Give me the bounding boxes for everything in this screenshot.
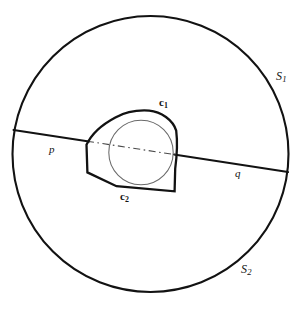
chord-segment-dashed-interior bbox=[87, 141, 176, 155]
chord-segment-left bbox=[14, 130, 90, 142]
label-upper-arc-c1: c1 bbox=[159, 97, 168, 110]
label-c2-subscript: 2 bbox=[125, 195, 129, 204]
label-s1-subscript: 1 bbox=[282, 74, 286, 84]
label-outer-circle-s1: S1 bbox=[276, 70, 287, 84]
geometry-figure: S1 S2 c1 c2 p q bbox=[0, 0, 299, 310]
figure-canvas bbox=[0, 0, 299, 310]
label-lower-arc-c2: c2 bbox=[120, 191, 129, 204]
chord-segment-right bbox=[174, 155, 288, 173]
label-s2-subscript: 2 bbox=[247, 267, 251, 277]
inner-thin-circle bbox=[109, 120, 173, 184]
label-c1-subscript: 1 bbox=[164, 101, 168, 110]
label-chord-endpoint-q: q bbox=[235, 168, 241, 179]
convex-boundary bbox=[87, 110, 177, 191]
label-outer-circle-s2: S2 bbox=[241, 263, 252, 277]
label-chord-endpoint-p: p bbox=[49, 144, 55, 155]
